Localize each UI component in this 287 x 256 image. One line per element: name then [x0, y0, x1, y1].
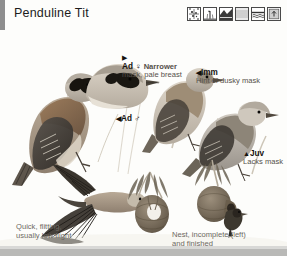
caption-flight-line2: usually low flight	[16, 231, 71, 240]
immature-body: Hint of dusky mask	[196, 77, 260, 86]
reedbed-habitat-icon[interactable]	[203, 7, 217, 21]
caption-flight-line1: Quick, flitting,	[16, 222, 71, 231]
juvenile-arrow: ▲	[243, 150, 250, 157]
page-title: Penduline Tit	[14, 6, 89, 20]
page-bottom-border	[0, 249, 287, 256]
nest-habitat-icon[interactable]	[267, 7, 281, 21]
caption-flight: Quick, flitting, usually low flight	[16, 222, 71, 241]
distribution-map-icon[interactable]	[187, 7, 201, 21]
wetland-habitat-icon[interactable]	[219, 7, 233, 21]
label-adult-female: ▶ Ad ♀ Narrower mask, pale breast	[122, 54, 182, 80]
adult-male-age: Ad	[121, 114, 132, 123]
adult-female-arrow: ▶	[122, 54, 182, 62]
symbol-icon-row	[187, 7, 281, 21]
water-habitat-icon[interactable]	[251, 7, 265, 21]
adult-male-sex-symbol: ♂	[134, 114, 140, 123]
figure-nest-finished	[195, 160, 248, 238]
label-juvenile: ▲Juv Lacks mask	[243, 149, 283, 167]
scrub-habitat-icon[interactable]	[235, 7, 249, 21]
caption-nest-line1: Nest, incomplete (left)	[172, 230, 246, 239]
adult-female-body: mask, pale breast	[122, 71, 182, 80]
adult-male-heading: ◀Ad ♂	[116, 114, 140, 123]
label-immature: ◀Imm Hint of dusky mask	[196, 68, 260, 86]
juvenile-body: Lacks mask	[243, 158, 283, 167]
label-adult-male: ◀Ad ♂	[116, 114, 140, 123]
field-guide-page: Penduline Tit	[0, 0, 287, 256]
